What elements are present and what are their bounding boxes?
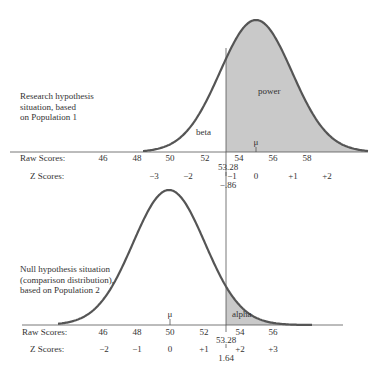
top-cutoff-z: −.86	[220, 180, 236, 190]
description-line: Research hypothesis	[20, 91, 94, 102]
bottom-cutoff-raw: 53.28	[216, 335, 236, 345]
top-z-tick: +2	[322, 171, 332, 181]
bottom-z-tick: +1	[199, 344, 209, 354]
description-line: Null hypothesis situation	[20, 264, 114, 275]
null-hypothesis-description: Null hypothesis situation (comparison di…	[20, 264, 114, 296]
bottom-z-tick: −2	[99, 344, 109, 354]
power-diagram	[0, 0, 385, 373]
bottom-raw-tick: 56	[269, 327, 278, 337]
top-raw-scores-label: Raw Scores:	[20, 153, 65, 163]
alpha-label: alpha	[232, 309, 252, 319]
power-shaded-area	[226, 20, 368, 152]
bottom-z-tick: −1	[132, 344, 142, 354]
description-line: on Population 1	[20, 112, 94, 123]
bottom-raw-tick: 46	[99, 327, 108, 337]
bottom-z-tick: 0	[168, 344, 173, 354]
bottom-raw-scores-label: Raw Scores:	[22, 327, 67, 337]
top-z-tick: −3	[149, 171, 159, 181]
bottom-z-tick: +2	[235, 344, 245, 354]
bottom-raw-tick: 50	[166, 327, 175, 337]
top-raw-tick: 50	[166, 153, 175, 163]
research-hypothesis-description: Research hypothesis situation, based on …	[20, 91, 94, 123]
top-z-tick: 0	[254, 171, 259, 181]
top-z-tick: −2	[183, 171, 193, 181]
top-raw-tick: 46	[99, 153, 108, 163]
bottom-raw-tick: 52	[200, 327, 209, 337]
bottom-cutoff-z: 1.64	[218, 353, 234, 363]
top-raw-tick: 58	[303, 153, 312, 163]
description-line: (comparison distribution),	[20, 275, 114, 286]
null-distribution-curve	[58, 190, 312, 325]
bottom-mu-label: μ	[168, 309, 173, 319]
top-raw-tick: 52	[201, 153, 210, 163]
bottom-raw-tick: 48	[133, 327, 142, 337]
top-raw-tick: 48	[133, 153, 142, 163]
bottom-z-tick: +3	[268, 344, 278, 354]
top-raw-tick: 56	[269, 153, 278, 163]
bottom-raw-tick: 54	[236, 327, 245, 337]
top-mu-label: μ	[254, 137, 259, 147]
bottom-z-scores-label: Z Scores:	[30, 344, 64, 354]
description-line: situation, based	[20, 102, 94, 113]
power-label: power	[258, 86, 281, 96]
top-z-scores-label: Z Scores:	[30, 171, 64, 181]
top-z-tick: +1	[288, 171, 298, 181]
description-line: based on Population 2	[20, 285, 114, 296]
beta-label: beta	[196, 127, 211, 137]
